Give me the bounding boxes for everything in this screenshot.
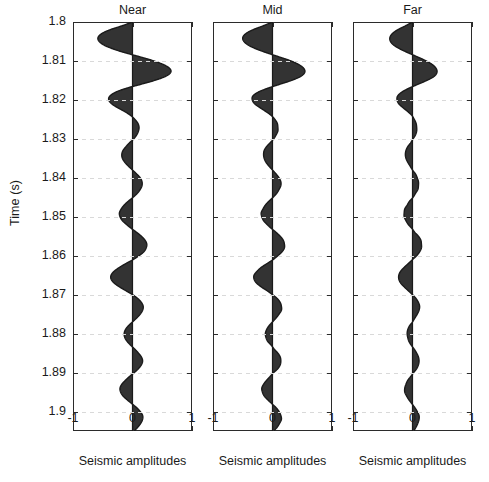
y-tick-mark [187,139,192,140]
trace-lobe-negative [111,260,133,294]
y-tick-mark [327,100,332,101]
y-tick-mark [327,217,332,218]
gridline [354,100,471,101]
x-tick-mark [332,426,333,431]
gridline [214,334,331,335]
y-tick-mark [327,334,332,335]
gridline [74,295,191,296]
y-tick-mark [327,139,332,140]
y-tick-mark [187,178,192,179]
y-tick-mark [467,100,472,101]
panel-title-far: Far [353,3,472,17]
x-tick-mark [413,22,414,27]
y-tick-mark [213,334,218,335]
y-tick-mark [213,61,218,62]
gridline [74,217,191,218]
y-tick-mark [353,61,358,62]
y-tick-label: 1.82 [22,92,66,106]
gridline [214,217,331,218]
gridline [354,178,471,179]
x-tick-label: 0 [398,411,428,425]
x-tick-mark [332,22,333,27]
x-axis-label-far: Seismic amplitudes [339,454,486,468]
y-tick-mark [327,178,332,179]
x-tick-mark [353,22,354,27]
panel-title-mid: Mid [213,3,332,17]
gridline [354,61,471,62]
gridline [74,334,191,335]
x-tick-label: 0 [258,411,288,425]
y-tick-mark [327,256,332,257]
x-tick-mark [73,426,74,431]
y-tick-label: 1.83 [22,131,66,145]
x-tick-label: -1 [58,411,88,425]
y-tick-mark [467,178,472,179]
y-tick-mark [467,334,472,335]
panel-title-near: Near [73,3,192,17]
seismic-trace-far [353,22,472,431]
gridline [74,373,191,374]
seismic-trace-near [73,22,192,431]
gridline [214,139,331,140]
x-axis-label-near: Seismic amplitudes [59,454,206,468]
y-tick-mark [73,256,78,257]
gridline [214,61,331,62]
y-tick-mark [213,295,218,296]
y-tick-mark [327,61,332,62]
x-tick-label: -1 [338,411,368,425]
gridline [74,139,191,140]
x-tick-mark [192,426,193,431]
y-tick-mark [353,295,358,296]
y-tick-mark [327,295,332,296]
y-tick-label: 1.87 [22,287,66,301]
gridline [74,178,191,179]
x-tick-mark [192,22,193,27]
gridline [74,256,191,257]
x-tick-mark [133,22,134,27]
y-tick-mark [187,100,192,101]
y-tick-mark [467,139,472,140]
y-tick-mark [187,295,192,296]
y-tick-mark [213,256,218,257]
x-axis-label-mid: Seismic amplitudes [199,454,346,468]
y-tick-mark [467,373,472,374]
y-tick-mark [467,295,472,296]
x-tick-label: 1 [457,411,487,425]
y-tick-mark [353,100,358,101]
trace-lobe-negative [109,87,133,117]
y-tick-mark [187,373,192,374]
x-tick-label: -1 [198,411,228,425]
y-tick-mark [187,334,192,335]
gridline [354,295,471,296]
gridline [354,373,471,374]
panel-mid: Mid Seismic amplitudes [213,22,332,431]
y-tick-mark [467,61,472,62]
gridline [354,334,471,335]
y-tick-mark [213,178,218,179]
y-tick-label: 1.89 [22,365,66,379]
y-tick-mark [73,139,78,140]
y-tick-mark [73,295,78,296]
y-tick-mark [353,139,358,140]
y-tick-label: 1.88 [22,326,66,340]
y-tick-mark [187,61,192,62]
y-tick-label: 1.8 [22,14,66,28]
panel-far: Far Seismic amplitudes [353,22,472,431]
panel-near: Near Seismic amplitudes [73,22,192,431]
gridline [74,61,191,62]
gridline [214,256,331,257]
y-tick-mark [73,334,78,335]
y-tick-mark [187,217,192,218]
y-tick-mark [353,373,358,374]
y-tick-mark [187,256,192,257]
x-tick-mark [413,426,414,431]
x-tick-mark [472,426,473,431]
seismic-figure: Time (s) 1.81.811.821.831.841.851.861.87… [0,0,489,482]
x-tick-mark [133,426,134,431]
y-tick-mark [353,178,358,179]
x-tick-mark [353,426,354,431]
y-tick-mark [73,61,78,62]
gridline [354,256,471,257]
gridline [214,295,331,296]
gridline [214,373,331,374]
